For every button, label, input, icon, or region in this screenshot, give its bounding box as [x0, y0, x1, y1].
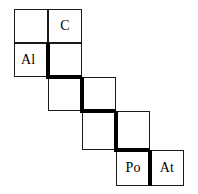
element-symbol-c: C — [49, 19, 81, 33]
stair-v-4 — [148, 150, 152, 186]
cell-r5c3: Po — [116, 150, 150, 186]
cell-r3c2 — [82, 77, 116, 111]
cell-r1c1: C — [48, 9, 82, 43]
cell-r1c0 — [14, 9, 48, 43]
staircase-diagram: CAlPoAt — [0, 0, 198, 194]
cell-r4c3 — [116, 111, 150, 150]
cell-r2c0: Al — [14, 43, 48, 77]
cell-r4c2 — [82, 111, 116, 150]
stair-v-2 — [80, 77, 84, 113]
stair-h-1 — [46, 75, 82, 79]
element-symbol-al: Al — [15, 53, 47, 67]
cell-r5c4: At — [150, 150, 184, 186]
cell-r3c1 — [48, 77, 82, 111]
element-symbol-at: At — [151, 161, 183, 175]
stair-h-3 — [114, 148, 150, 152]
stair-v-1 — [46, 43, 50, 79]
cell-r2c1 — [48, 43, 82, 77]
stair-v-3 — [114, 111, 118, 152]
element-symbol-po: Po — [117, 161, 149, 175]
stair-h-2 — [80, 109, 116, 113]
